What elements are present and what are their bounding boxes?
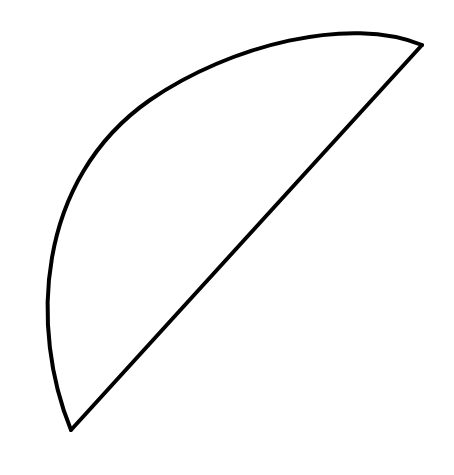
segment-diagram bbox=[0, 0, 454, 475]
background bbox=[0, 0, 454, 475]
